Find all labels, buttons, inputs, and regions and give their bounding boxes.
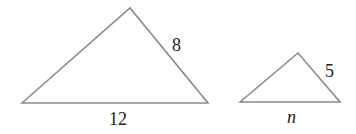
- triangles-drawing: [0, 0, 356, 134]
- similar-triangles-figure: 8 12 5 n: [0, 0, 356, 134]
- large-triangle: [22, 8, 208, 103]
- small-triangle-base-label: n: [287, 108, 296, 126]
- large-triangle-side-label: 8: [172, 36, 181, 54]
- large-triangle-base-label: 12: [109, 110, 127, 128]
- small-triangle-side-label: 5: [325, 62, 334, 80]
